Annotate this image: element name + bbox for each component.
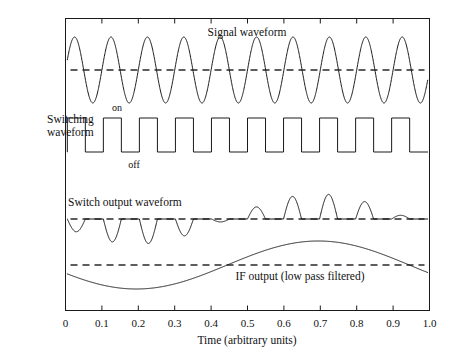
x-tick-label: 0.7 xyxy=(313,317,327,329)
x-tick-label: 1.0 xyxy=(423,317,437,329)
waveform-figure: 00.10.20.30.40.50.60.70.80.91.0 Signal w… xyxy=(0,0,456,357)
x-tick-label: 0.5 xyxy=(241,317,255,329)
x-tick-label: 0.2 xyxy=(131,317,145,329)
if-output-label: IF output (low pass filtered) xyxy=(235,270,364,283)
switching-waveform-label-line1: Switching xyxy=(47,113,94,126)
off-label: off xyxy=(128,159,140,170)
signal-waveform-label: Signal waveform xyxy=(208,26,287,39)
switch-output-waveform-label: Switch output waveform xyxy=(68,196,182,209)
on-label: on xyxy=(112,102,122,113)
x-tick-label: 0.9 xyxy=(386,317,400,329)
switching-waveform-label-line2: waveform xyxy=(47,126,94,138)
x-tick-label: 0.8 xyxy=(350,317,364,329)
x-tick-label: 0.3 xyxy=(168,317,182,329)
x-tick-label: 0 xyxy=(63,317,69,329)
x-tick-label: 0.4 xyxy=(204,317,218,329)
x-axis-title: Time (arbitrary units) xyxy=(197,334,296,347)
x-tick-label: 0.1 xyxy=(95,317,109,329)
x-tick-label: 0.6 xyxy=(277,317,291,329)
switching-waveform-trace xyxy=(67,118,427,152)
figure-container: 00.10.20.30.40.50.60.70.80.91.0 Signal w… xyxy=(0,0,456,357)
